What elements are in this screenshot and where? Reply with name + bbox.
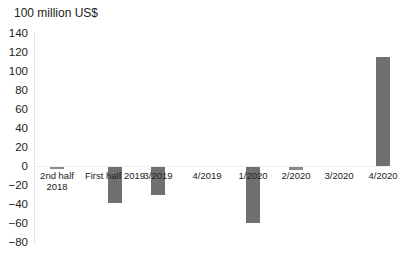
y-tick-label: −80 [8, 236, 28, 248]
y-tick-label: 40 [15, 122, 28, 134]
y-tick-label: 20 [15, 141, 28, 153]
y-tick-label: 120 [9, 46, 28, 58]
y-tick-label: 80 [15, 84, 28, 96]
zero-baseline [35, 166, 387, 167]
x-tick-label: 4/2020 [343, 170, 402, 181]
y-axis-line [34, 32, 35, 244]
y-tick-label: 100 [9, 65, 28, 77]
y-tick-label: 60 [15, 103, 28, 115]
bar-4-2020 [376, 57, 390, 166]
y-tick-label: 140 [9, 27, 28, 39]
y-tick-label: −40 [8, 198, 28, 210]
y-tick-label: −60 [8, 217, 28, 229]
bar-2nd-half-2018 [50, 167, 64, 169]
y-axis-unit-label: 100 million US$ [14, 6, 98, 20]
